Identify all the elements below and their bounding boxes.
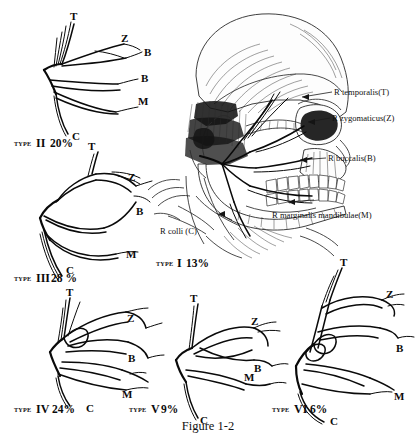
- type-2-percent: 20%: [50, 137, 73, 149]
- type-5-letter-T: T: [190, 292, 198, 304]
- type-2-word: TYPE: [14, 140, 31, 147]
- type-4-word: TYPE: [14, 406, 31, 413]
- type-6-letter-Z: Z: [386, 288, 393, 300]
- figure-canvas: R temporalis(T) R zygomaticus(Z) R bucca…: [0, 0, 417, 435]
- type-2-letter-C: C: [72, 130, 80, 142]
- type-6-letter-B: B: [396, 342, 404, 354]
- type-2-letter-T: T: [70, 10, 78, 22]
- type-4-numeral: IV: [36, 402, 50, 416]
- type-5-letter-M: M: [244, 371, 255, 383]
- type-6-word: TYPE: [272, 406, 289, 413]
- type-5-letter-Z: Z: [251, 315, 258, 327]
- type-4-percent: 24%: [52, 403, 75, 415]
- type-1-percent: 13%: [186, 257, 209, 269]
- type-3-percent: 28 %: [51, 272, 77, 284]
- type-6-letter-T: T: [340, 256, 348, 268]
- type-4-letter-M: M: [122, 388, 133, 400]
- type-6-numeral: VI: [294, 402, 308, 416]
- type-2-letter-B1: B: [144, 46, 152, 58]
- type-3-letter-T: T: [88, 140, 96, 152]
- label-r-zygomaticus: R zygomaticus(Z): [332, 113, 394, 123]
- type-3-numeral: III: [36, 271, 50, 285]
- type-3-letter-Z: Z: [128, 171, 135, 183]
- external-auditory-meatus: [193, 128, 214, 149]
- label-r-buccalis: R buccalis(B): [328, 153, 376, 163]
- type-1-word: TYPE: [156, 260, 173, 267]
- type-6-percent: 6%: [310, 403, 327, 415]
- type-5-letter-B: B: [254, 362, 262, 374]
- label-r-colli: R colli (C): [160, 226, 197, 236]
- type-5-percent: 9%: [161, 403, 178, 415]
- type-6-letter-M: M: [394, 390, 405, 402]
- label-r-marginalis-mandibulae: R marginalis mandibulae(M): [272, 210, 372, 220]
- type-4-letter-B: B: [128, 352, 136, 364]
- type-5-numeral: V: [151, 402, 160, 416]
- type-4-letter-C: C: [86, 402, 94, 414]
- type-2-letter-B2: B: [141, 72, 149, 84]
- type-3-letter-B: B: [136, 205, 144, 217]
- figure-caption: Figure 1-2: [182, 419, 234, 433]
- type-2-letter-M: M: [138, 95, 149, 107]
- type-5-word: TYPE: [129, 406, 146, 413]
- figure-1-2: R temporalis(T) R zygomaticus(Z) R bucca…: [0, 0, 417, 435]
- type-1-numeral: I: [177, 256, 182, 270]
- type-2-numeral: II: [36, 136, 46, 150]
- type-4-letter-T: T: [66, 286, 74, 298]
- label-r-temporalis: R temporalis(T): [334, 87, 389, 97]
- type-3-word: TYPE: [14, 275, 31, 282]
- type-4-letter-Z: Z: [127, 312, 134, 324]
- type-2-letter-Z: Z: [121, 32, 128, 44]
- type-3-letter-M: M: [126, 248, 137, 260]
- type-6-letter-C: C: [330, 415, 338, 427]
